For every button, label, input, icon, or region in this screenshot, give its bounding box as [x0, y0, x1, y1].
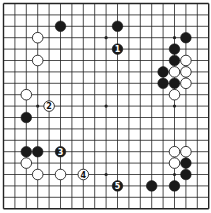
move-number-label: 3: [58, 148, 64, 157]
black-stone: [32, 146, 43, 157]
black-stone: [158, 78, 169, 89]
white-stone: [32, 169, 43, 180]
black-stone: [181, 169, 192, 180]
move-number-label: 5: [115, 182, 121, 191]
white-stone: [181, 78, 192, 89]
black-stone: [169, 181, 180, 192]
move-2-white-stone: 2: [44, 101, 55, 112]
white-stone-icon: [181, 146, 192, 157]
star-point-icon: [173, 105, 176, 108]
black-stone: [55, 21, 66, 32]
white-stone-icon: [55, 169, 66, 180]
white-stone-icon: [181, 67, 192, 78]
star-point-icon: [173, 173, 176, 176]
move-number-label: 4: [81, 171, 87, 180]
star-point-icon: [105, 105, 108, 108]
black-stone-icon: [146, 181, 157, 192]
white-stone-icon: [181, 78, 192, 89]
black-stone: [181, 158, 192, 169]
white-stone-icon: [169, 89, 180, 100]
black-stone-icon: [169, 44, 180, 55]
white-stone-icon: [169, 158, 180, 169]
black-stone-icon: [112, 21, 123, 32]
white-stone-icon: [32, 169, 43, 180]
black-stone: [169, 44, 180, 55]
black-stone: [181, 32, 192, 43]
black-stone-icon: [169, 78, 180, 89]
white-stone: [21, 158, 32, 169]
white-stone-icon: [169, 67, 180, 78]
white-stone: [21, 89, 32, 100]
black-stone-icon: [32, 146, 43, 157]
white-stone: [181, 146, 192, 157]
black-stone: [146, 181, 157, 192]
white-stone-icon: [21, 89, 32, 100]
black-stone-icon: [169, 55, 180, 66]
move-1-black-stone: 1: [112, 44, 123, 55]
black-stone: [169, 78, 180, 89]
black-stone-icon: [158, 78, 169, 89]
white-stone: [169, 146, 180, 157]
black-stone: [21, 146, 32, 157]
black-stone-icon: [158, 67, 169, 78]
black-stone-icon: [21, 146, 32, 157]
star-point-icon: [105, 173, 108, 176]
white-stone: [169, 89, 180, 100]
black-stone-icon: [21, 112, 32, 123]
white-stone: [32, 55, 43, 66]
white-stone: [55, 169, 66, 180]
star-point-icon: [105, 36, 108, 39]
white-stone: [169, 158, 180, 169]
move-3-black-stone: 3: [55, 146, 66, 157]
white-stone: [32, 32, 43, 43]
white-stone: [169, 67, 180, 78]
black-stone-icon: [169, 181, 180, 192]
white-stone: [181, 67, 192, 78]
white-stone-icon: [21, 158, 32, 169]
white-stone-icon: [181, 55, 192, 66]
black-stone: [169, 55, 180, 66]
black-stone: [112, 21, 123, 32]
black-stone: [21, 112, 32, 123]
move-number-label: 2: [46, 102, 52, 111]
move-4-white-stone: 4: [78, 169, 89, 180]
white-stone-icon: [32, 32, 43, 43]
black-stone-icon: [55, 21, 66, 32]
star-point-icon: [173, 36, 176, 39]
white-stone-icon: [32, 55, 43, 66]
white-stone-icon: [169, 146, 180, 157]
go-board: 12345: [0, 0, 211, 213]
star-point-icon: [36, 105, 39, 108]
black-stone-icon: [181, 158, 192, 169]
black-stone-icon: [181, 169, 192, 180]
move-number-label: 1: [115, 45, 121, 54]
move-5-black-stone: 5: [112, 181, 123, 192]
black-stone-icon: [181, 32, 192, 43]
black-stone: [158, 67, 169, 78]
white-stone: [181, 55, 192, 66]
